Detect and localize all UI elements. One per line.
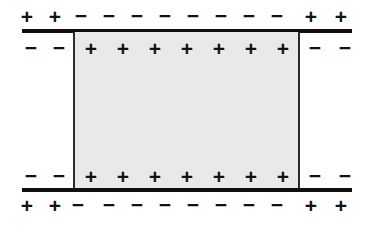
- negative-charge-symbol: −: [69, 196, 87, 214]
- negative-charge-symbol: −: [240, 196, 258, 214]
- charge-row-outer-top: ++−−−−−−−−++: [0, 7, 375, 27]
- negative-charge-symbol: −: [100, 7, 118, 25]
- negative-charge-symbol: −: [212, 196, 230, 214]
- positive-charge-symbol: +: [332, 196, 350, 216]
- negative-charge-symbol: −: [336, 167, 354, 185]
- positive-charge-symbol: +: [302, 196, 320, 216]
- bottom-capacitor-plate: [22, 188, 352, 192]
- capacitor-dielectric-diagram: ++−−−−−−−−++ −−+++++++−− −−+++++++−− ++−…: [0, 0, 375, 234]
- positive-charge-symbol: +: [46, 7, 64, 27]
- negative-charge-symbol: −: [156, 196, 174, 214]
- negative-charge-symbol: −: [22, 39, 40, 57]
- negative-charge-symbol: −: [22, 167, 40, 185]
- negative-charge-symbol: −: [184, 7, 202, 25]
- positive-charge-symbol: +: [302, 7, 320, 27]
- negative-charge-symbol: −: [156, 7, 174, 25]
- negative-charge-symbol: −: [268, 7, 286, 25]
- positive-charge-symbol: +: [46, 196, 64, 216]
- negative-charge-symbol: −: [128, 7, 146, 25]
- positive-charge-symbol: +: [18, 196, 36, 216]
- negative-charge-symbol: −: [50, 39, 68, 57]
- charge-row-outer-bottom: ++−−−−−−−−++: [0, 196, 375, 216]
- negative-charge-symbol: −: [240, 7, 258, 25]
- negative-charge-symbol: −: [72, 7, 90, 25]
- negative-charge-symbol: −: [184, 196, 202, 214]
- negative-charge-symbol: −: [100, 196, 118, 214]
- negative-charge-symbol: −: [50, 167, 68, 185]
- negative-charge-symbol: −: [306, 39, 324, 57]
- dielectric-slab: [73, 32, 300, 190]
- negative-charge-symbol: −: [268, 196, 286, 214]
- negative-charge-symbol: −: [336, 39, 354, 57]
- negative-charge-symbol: −: [306, 167, 324, 185]
- negative-charge-symbol: −: [128, 196, 146, 214]
- negative-charge-symbol: −: [212, 7, 230, 25]
- positive-charge-symbol: +: [18, 7, 36, 27]
- positive-charge-symbol: +: [332, 7, 350, 27]
